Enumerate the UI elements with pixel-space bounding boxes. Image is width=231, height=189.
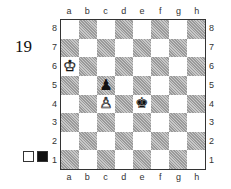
diagram-number: 19 [15, 37, 32, 57]
square-g7[interactable] [169, 39, 187, 58]
square-b7[interactable] [79, 39, 97, 58]
square-e7[interactable] [133, 39, 151, 58]
square-c3[interactable] [97, 113, 115, 132]
square-f8[interactable] [151, 20, 169, 39]
square-b5[interactable] [79, 76, 97, 95]
square-g5[interactable] [169, 76, 187, 95]
square-g3[interactable] [169, 113, 187, 132]
file-label-f: f [151, 6, 169, 16]
square-d3[interactable] [115, 113, 133, 132]
rank-label-4: 4 [52, 99, 57, 109]
square-d2[interactable] [115, 132, 133, 151]
square-h8[interactable] [187, 20, 205, 39]
square-a4[interactable] [61, 95, 79, 114]
square-e6[interactable] [133, 57, 151, 76]
square-d4[interactable] [115, 95, 133, 114]
square-h5[interactable] [187, 76, 205, 95]
square-b6[interactable] [79, 57, 97, 76]
square-d6[interactable] [115, 57, 133, 76]
file-label-b: b [78, 6, 96, 16]
white-to-move-box [23, 151, 34, 162]
square-b8[interactable] [79, 20, 97, 39]
white-king-icon[interactable]: ♔ [63, 59, 76, 74]
rank-label-3: 3 [209, 117, 214, 127]
square-e5[interactable] [133, 76, 151, 95]
square-h4[interactable] [187, 95, 205, 114]
square-f7[interactable] [151, 39, 169, 58]
square-h7[interactable] [187, 39, 205, 58]
square-e8[interactable] [133, 20, 151, 39]
square-a8[interactable] [61, 20, 79, 39]
rank-label-2: 2 [52, 136, 57, 146]
square-g6[interactable] [169, 57, 187, 76]
rank-label-8: 8 [52, 23, 57, 33]
file-label-d: d [115, 6, 133, 16]
rank-label-6: 6 [52, 61, 57, 71]
square-h1[interactable] [187, 150, 205, 169]
square-b3[interactable] [79, 113, 97, 132]
file-label-f: f [151, 172, 169, 182]
square-c4[interactable]: ♙ [97, 95, 115, 114]
square-f1[interactable] [151, 150, 169, 169]
rank-label-1: 1 [52, 155, 57, 165]
square-h2[interactable] [187, 132, 205, 151]
square-c5[interactable]: ♟ [97, 76, 115, 95]
square-g8[interactable] [169, 20, 187, 39]
file-label-h: h [188, 6, 206, 16]
rank-label-5: 5 [209, 80, 214, 90]
square-c8[interactable] [97, 20, 115, 39]
file-label-c: c [97, 6, 115, 16]
square-b1[interactable] [79, 150, 97, 169]
black-pawn-icon[interactable]: ♟ [99, 78, 112, 93]
square-a6[interactable]: ♔ [61, 57, 79, 76]
file-label-c: c [97, 172, 115, 182]
square-f5[interactable] [151, 76, 169, 95]
file-label-a: a [60, 172, 78, 182]
square-e4[interactable]: ♚ [133, 95, 151, 114]
square-e3[interactable] [133, 113, 151, 132]
file-label-e: e [133, 6, 151, 16]
square-a7[interactable] [61, 39, 79, 58]
square-d5[interactable] [115, 76, 133, 95]
square-h3[interactable] [187, 113, 205, 132]
rank-label-1: 1 [209, 155, 214, 165]
square-a1[interactable] [61, 150, 79, 169]
square-a5[interactable] [61, 76, 79, 95]
square-g1[interactable] [169, 150, 187, 169]
square-e1[interactable] [133, 150, 151, 169]
square-a2[interactable] [61, 132, 79, 151]
file-label-g: g [170, 6, 188, 16]
rank-label-6: 6 [209, 61, 214, 71]
square-e2[interactable] [133, 132, 151, 151]
square-c2[interactable] [97, 132, 115, 151]
square-f3[interactable] [151, 113, 169, 132]
file-label-d: d [115, 172, 133, 182]
black-to-move-box [37, 151, 48, 162]
file-label-a: a [60, 6, 78, 16]
square-f4[interactable] [151, 95, 169, 114]
square-c6[interactable] [97, 57, 115, 76]
chess-board: ♔♟♙♚ [60, 19, 206, 170]
square-b4[interactable] [79, 95, 97, 114]
square-g4[interactable] [169, 95, 187, 114]
square-a3[interactable] [61, 113, 79, 132]
square-h6[interactable] [187, 57, 205, 76]
square-f6[interactable] [151, 57, 169, 76]
rank-label-5: 5 [52, 80, 57, 90]
square-b2[interactable] [79, 132, 97, 151]
square-d1[interactable] [115, 150, 133, 169]
square-d7[interactable] [115, 39, 133, 58]
square-f2[interactable] [151, 132, 169, 151]
square-d8[interactable] [115, 20, 133, 39]
white-pawn-icon[interactable]: ♙ [99, 96, 112, 111]
rank-label-4: 4 [209, 99, 214, 109]
rank-label-7: 7 [209, 42, 214, 52]
black-king-icon[interactable]: ♚ [135, 96, 148, 111]
rank-label-3: 3 [52, 117, 57, 127]
file-label-b: b [78, 172, 96, 182]
file-label-g: g [170, 172, 188, 182]
rank-label-2: 2 [209, 136, 214, 146]
square-c1[interactable] [97, 150, 115, 169]
square-c7[interactable] [97, 39, 115, 58]
square-g2[interactable] [169, 132, 187, 151]
